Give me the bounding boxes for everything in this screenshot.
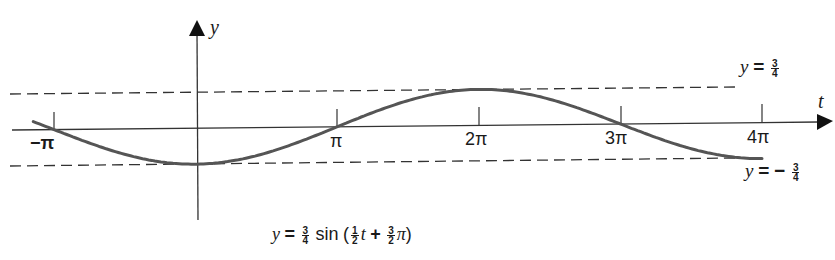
t-axis-arrow-icon [817, 114, 833, 130]
formula-pi: π [397, 224, 406, 244]
formula-equals: = [285, 224, 296, 244]
upper-bound-fraction: 3 4 [771, 59, 779, 78]
upper-bound-label: y = 3 4 [740, 56, 781, 78]
formula-caption: y = 3 4 sin ( 1 2 t + 3 2 π) [272, 224, 412, 245]
formula-var: t [361, 224, 366, 244]
formula-frequency: 1 2 [351, 226, 359, 245]
upper-bound-dashed-line [10, 87, 735, 94]
t-axis [12, 122, 818, 130]
y-axis-label: y [210, 16, 219, 39]
formula-open-paren: ( [343, 224, 349, 244]
tick-label-4pi: 4π [747, 127, 769, 148]
formula-func: sin [316, 224, 339, 244]
upper-bound-equals: = [753, 56, 764, 77]
upper-bound-y: y [740, 56, 748, 77]
t-axis-label: t [818, 90, 824, 113]
formula-amplitude: 3 4 [302, 226, 310, 245]
lower-bound-fraction: 3 4 [792, 163, 800, 182]
lower-bound-equals: = [758, 160, 769, 181]
tick-label-neg-pi: −π [30, 133, 54, 154]
lower-bound-minus: − [774, 160, 785, 181]
formula-phase: 3 2 [387, 226, 395, 245]
sine-graph [0, 0, 835, 260]
x-ticks [54, 104, 762, 129]
lower-bound-y: y [745, 160, 753, 181]
tick-label-3pi: 3π [605, 128, 627, 149]
y-axis-arrow-icon [189, 20, 205, 36]
formula-close-paren: ) [406, 224, 412, 244]
lower-bound-dashed-line [10, 158, 735, 166]
formula-lhs: y [272, 224, 280, 244]
formula-plus: + [370, 224, 381, 244]
lower-bound-label: y = − 3 4 [745, 160, 801, 182]
y-axis [197, 30, 198, 220]
tick-label-pi: π [330, 131, 342, 152]
tick-label-2pi: 2π [465, 129, 487, 150]
